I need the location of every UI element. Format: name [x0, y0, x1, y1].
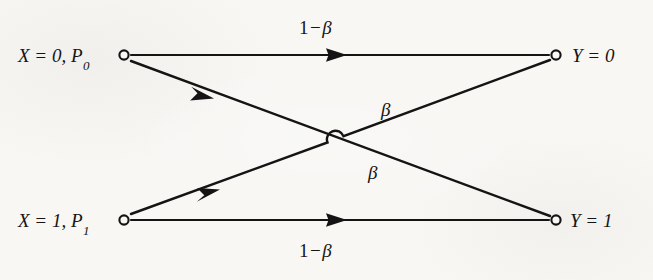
arrowhead-x1-y1 — [326, 213, 347, 227]
node-label-x0-subscript: 0 — [83, 58, 90, 73]
arrowhead-x1-y0 — [197, 188, 220, 202]
edge-group — [131, 55, 550, 220]
edge-label-x1-y1-symbol: β — [322, 240, 331, 261]
node-label-x1-subscript: 1 — [83, 223, 90, 238]
edge-label-x1-y1-op: − — [309, 240, 323, 261]
node-label-x1: X = 1, P1 — [18, 211, 89, 234]
node-label-y1-text: Y = 1 — [570, 210, 612, 231]
edge-label-x1-y1-lead: 1 — [299, 240, 309, 261]
node-marker-y1 — [551, 215, 560, 224]
node-marker-y0 — [551, 50, 560, 59]
edge-label-x1-y1: 1−β — [299, 241, 332, 260]
node-marker-x0 — [119, 50, 128, 59]
arrowhead-group — [190, 48, 347, 227]
arrowhead-x0-y1 — [190, 87, 214, 101]
node-label-y1: Y = 1 — [570, 211, 612, 230]
arrowhead-x0-y0 — [326, 48, 347, 62]
node-label-y0-text: Y = 0 — [572, 45, 614, 66]
edge-label-x0-y0-op: − — [309, 17, 323, 38]
node-label-x0: X = 0, P0 — [18, 46, 89, 69]
node-marker-x1 — [119, 215, 128, 224]
node-label-y0: Y = 0 — [572, 46, 614, 65]
channel-diagram-svg — [0, 0, 653, 280]
bsc-figure: X = 0, P0 X = 1, P1 Y = 0 Y = 1 1−β 1−β … — [0, 0, 653, 280]
edge-label-x0-y1: β — [368, 163, 377, 182]
edge-label-x0-y0-symbol: β — [322, 17, 331, 38]
node-label-x1-text: X = 1, P — [18, 210, 83, 231]
edge-label-x1-y0: β — [381, 100, 390, 119]
edge-label-x0-y1-symbol: β — [368, 162, 377, 183]
node-label-x0-text: X = 0, P — [18, 45, 83, 66]
edge-label-x0-y0-lead: 1 — [299, 17, 309, 38]
edge-label-x0-y0: 1−β — [299, 18, 332, 37]
edge-label-x1-y0-symbol: β — [381, 99, 390, 120]
